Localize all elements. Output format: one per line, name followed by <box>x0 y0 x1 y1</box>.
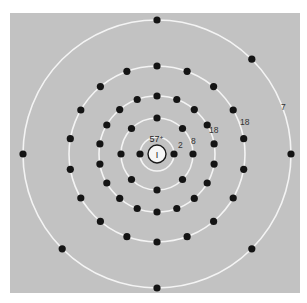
nucleus-charge-label: 57⁺ <box>149 134 164 144</box>
electron-icon <box>116 195 123 202</box>
shell-2-count-label: 8 <box>191 136 196 146</box>
electron-icon <box>123 233 130 240</box>
electron-icon <box>153 208 160 215</box>
electron-icon <box>96 140 103 147</box>
electron-icon <box>153 186 160 193</box>
electron-icon <box>134 96 141 103</box>
electron-icon <box>179 125 186 132</box>
electron-icon <box>153 92 160 99</box>
electron-icon <box>191 106 198 113</box>
electron-icon <box>211 161 218 168</box>
electron-icon <box>153 284 160 291</box>
electron-icon <box>123 68 130 75</box>
electron-icon <box>103 121 110 128</box>
electron-icon <box>240 135 247 142</box>
electron-icon <box>173 96 180 103</box>
electron-icon <box>191 195 198 202</box>
electron-icon <box>103 179 110 186</box>
electron-icon <box>248 56 255 63</box>
electron-icon <box>67 135 74 142</box>
electron-icon <box>136 150 143 157</box>
electron-icon <box>230 194 237 201</box>
electron-icon <box>153 238 160 245</box>
electron-icon <box>204 179 211 186</box>
electron-icon <box>210 218 217 225</box>
atom-diagram: 2818187 I 57⁺ <box>0 0 307 303</box>
electron-icon <box>153 114 160 121</box>
electron-icon <box>128 176 135 183</box>
electron-icon <box>134 205 141 212</box>
electron-icon <box>170 150 177 157</box>
electron-icon <box>59 245 66 252</box>
electron-icon <box>230 106 237 113</box>
electron-icon <box>97 83 104 90</box>
shell-4-count-label: 18 <box>240 117 250 127</box>
shell-5-count-label: 7 <box>281 102 286 112</box>
nucleus-symbol: I <box>156 150 159 160</box>
shell-1-count-label: 2 <box>178 140 183 150</box>
electron-icon <box>179 176 186 183</box>
shell-3-count-label: 18 <box>209 125 219 135</box>
electron-icon <box>96 161 103 168</box>
electron-icon <box>153 62 160 69</box>
electron-icon <box>77 194 84 201</box>
electron-icon <box>240 166 247 173</box>
electron-icon <box>67 166 74 173</box>
electron-icon <box>210 83 217 90</box>
electron-icon <box>153 16 160 23</box>
electron-icon <box>128 125 135 132</box>
electron-icon <box>117 150 124 157</box>
electron-icon <box>97 218 104 225</box>
electron-icon <box>173 205 180 212</box>
electron-icon <box>287 150 294 157</box>
electron-icon <box>189 150 196 157</box>
electron-icon <box>116 106 123 113</box>
electron-icon <box>248 245 255 252</box>
nucleus: I 57⁺ <box>148 134 166 163</box>
electron-icon <box>211 140 218 147</box>
electron-icon <box>184 233 191 240</box>
electron-icon <box>19 150 26 157</box>
electron-icon <box>184 68 191 75</box>
electron-icon <box>77 106 84 113</box>
